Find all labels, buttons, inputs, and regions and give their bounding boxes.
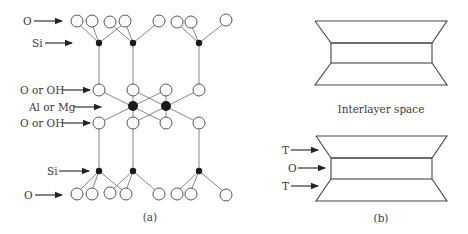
label-t-lower: T bbox=[282, 180, 289, 192]
label-oct-top: O or OH bbox=[20, 84, 64, 96]
octahedral-bottom-oxygen bbox=[93, 117, 205, 129]
panel-b: Interlayer space T O T (b) bbox=[282, 21, 447, 224]
octahedral-bonds bbox=[99, 90, 199, 171]
label-oct-metal: Al or Mg bbox=[28, 101, 76, 113]
interlayer-space-label: Interlayer space bbox=[338, 103, 425, 115]
tot-unit-upper bbox=[315, 21, 447, 85]
label-bottom-si: Si bbox=[47, 165, 58, 177]
label-top-si: Si bbox=[32, 37, 43, 49]
label-bottom-o: O bbox=[24, 189, 33, 201]
bottom-tetrahedral-bonds bbox=[80, 171, 222, 190]
label-o-middle: O bbox=[288, 162, 297, 174]
tot-clay-structure-figure: O Si O or OH Al or Mg O or OH Si O (a) I… bbox=[0, 0, 468, 234]
bottom-oxygen-atoms bbox=[71, 187, 232, 201]
octahedral-metal-atoms bbox=[128, 101, 171, 111]
label-t-upper: T bbox=[282, 144, 289, 156]
top-oxygen-atoms bbox=[71, 14, 232, 28]
tot-unit-lower bbox=[316, 136, 447, 201]
octahedral-top-oxygen bbox=[93, 84, 205, 96]
top-tetrahedral-bonds bbox=[80, 25, 222, 84]
panel-a: O Si O or OH Al or Mg O or OH Si O (a) bbox=[20, 14, 232, 223]
label-top-o: O bbox=[23, 15, 32, 27]
top-silicon-atoms bbox=[96, 40, 202, 46]
caption-b: (b) bbox=[374, 212, 389, 224]
label-oct-bottom: O or OH bbox=[20, 117, 64, 129]
bottom-silicon-atoms bbox=[96, 168, 202, 174]
caption-a: (a) bbox=[143, 211, 157, 223]
